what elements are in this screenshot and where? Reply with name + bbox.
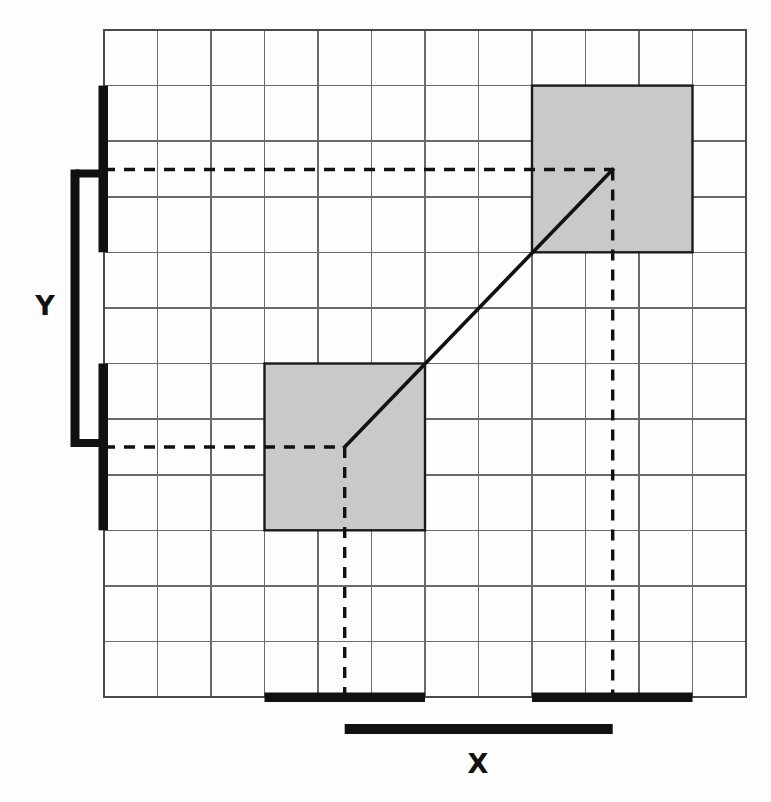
x-axis-label: X (463, 750, 493, 777)
y-extent-bar-lower (99, 364, 109, 531)
figure-canvas: Y X (0, 0, 771, 802)
x-separation-bar (345, 724, 613, 734)
y-axis-label: Y (30, 292, 60, 319)
y-extent-bar-upper (99, 86, 109, 253)
y-separation-bracket (75, 170, 99, 448)
diagram-svg (0, 0, 771, 802)
x-extent-bar-lower (265, 693, 426, 703)
x-extent-bar-upper (532, 693, 693, 703)
